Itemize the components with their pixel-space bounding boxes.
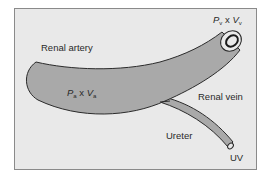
arterial-subscript: a: [93, 93, 96, 99]
renal-artery-label: Renal artery: [41, 43, 93, 53]
urine-flux-label: UV: [230, 153, 243, 163]
ureter-label: Ureter: [166, 131, 192, 141]
arterial-flux-label: Pa x Va: [67, 88, 96, 99]
times-symbol: x: [77, 87, 87, 98]
venous-flux-label: Pv x Vv: [213, 15, 242, 26]
venous-subscript: v: [239, 20, 242, 26]
times-symbol: x: [222, 14, 232, 25]
renal-vein-label: Renal vein: [198, 92, 243, 102]
